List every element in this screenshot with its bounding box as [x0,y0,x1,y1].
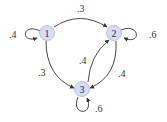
diagram-svg: 1 2 3 .4 .3 .3 .6 .4 .4 .6 [0,0,167,122]
edge-3-to-2 [88,40,109,82]
label-1-to-1: .4 [9,29,17,40]
markov-chain-diagram: 1 2 3 .4 .3 .3 .6 .4 .4 .6 [0,0,167,122]
node-3: 3 [75,82,90,97]
self-loop-1 [25,29,40,39]
label-2-to-3: .4 [118,68,126,79]
node-2: 2 [107,26,122,41]
self-loop-2 [121,28,136,39]
label-2-to-2: .6 [149,29,157,40]
node-1: 1 [40,26,55,41]
edge-2-to-3 [90,41,116,88]
label-3-to-3: .6 [95,103,103,114]
edge-1-to-3 [46,41,74,88]
label-3-to-2: .4 [79,55,87,66]
node-2-label: 2 [112,28,117,39]
node-1-label: 1 [45,28,50,39]
node-3-label: 3 [80,84,85,95]
label-1-to-3: .3 [38,67,46,78]
edge-1-to-2 [54,19,107,28]
label-1-to-2: .3 [77,3,85,14]
self-loop-3 [76,97,88,111]
